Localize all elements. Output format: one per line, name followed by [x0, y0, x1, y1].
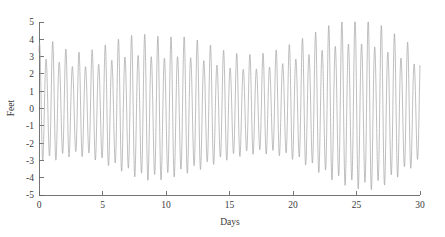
y-tick-label: -3: [26, 156, 34, 166]
x-tick-label: 15: [225, 200, 235, 210]
y-tick-label: 3: [29, 52, 34, 62]
x-tick-label: 30: [415, 200, 425, 210]
y-axis-title: Feet: [6, 99, 16, 116]
y-tick-label: -2: [26, 139, 34, 149]
chart-background: [0, 0, 445, 237]
tide-chart-figure: -5-4-3-2-1012345 051015202530 Feet Days: [0, 0, 445, 237]
x-tick-label: 25: [352, 200, 362, 210]
x-tick-label: 0: [37, 200, 42, 210]
y-tick-label: 5: [29, 17, 34, 27]
x-tick-label: 10: [161, 200, 171, 210]
x-axis-title: Days: [220, 217, 240, 227]
y-tick-label: -5: [26, 190, 34, 200]
y-tick-label: 4: [29, 35, 34, 45]
x-tick-label: 20: [288, 200, 298, 210]
x-tick-label: 5: [100, 200, 105, 210]
chart-canvas: -5-4-3-2-1012345 051015202530 Feet Days: [0, 0, 445, 237]
y-tick-label: -1: [26, 121, 34, 131]
y-tick-label: 2: [29, 69, 34, 79]
y-tick-label: 0: [29, 104, 34, 114]
y-tick-label: 1: [29, 87, 34, 97]
y-tick-label: -4: [26, 173, 34, 183]
